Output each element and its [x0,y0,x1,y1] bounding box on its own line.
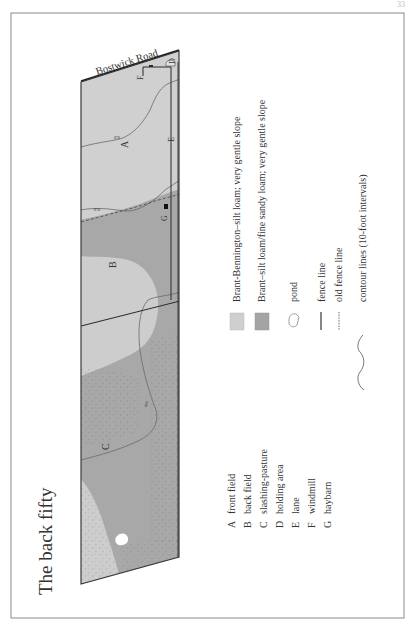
field-label-f: F [136,75,145,80]
svg-text:haybarn: haybarn [322,482,333,514]
legend-label-light-swatch: Brant-Bennington–silt loam; very gentle … [231,116,242,302]
legend-key-e: Elane [290,497,301,528]
field-label-e: E [167,137,176,142]
field-label-b: B [107,261,118,268]
field-label-a: A [119,140,130,148]
svg-text:front field: front field [226,474,237,514]
legend-key-f: Fwindmill [306,478,317,528]
svg-text:lane: lane [290,497,301,514]
map-page: 33 The back fifty [0,0,411,624]
legend-label-contour-line: contour lines (10-foot intervals) [357,175,369,302]
page-number: 33 [397,0,405,9]
svg-text:A: A [226,520,237,528]
map-area [70,40,190,600]
svg-text:back field: back field [242,474,253,514]
contour-label: 870 [94,207,100,212]
legend-key-g: Ghaybarn [322,482,333,528]
light-soil-swatch [230,313,244,330]
legend-label-fence-line: fence line [316,262,327,302]
legend-label-pond: pond [288,282,299,302]
svg-text:F: F [306,522,317,528]
field-label-c: C [100,443,111,450]
svg-text:B: B [242,521,253,528]
contour-line-icon [358,335,364,390]
pond-icon [289,314,299,327]
legend-label-old-fence-line: old fence line [333,247,344,302]
svg-text:holding area: holding area [274,464,285,514]
legend-key-a: Afront field [226,474,237,528]
field-label-g: G [160,215,169,221]
legend-symbols: Brant-Bennington–silt loam; very gentle … [230,99,369,390]
svg-text:windmill: windmill [306,478,317,514]
svg-text:C: C [258,521,269,528]
legend-key-b: Bback field [242,474,253,528]
page-frame [11,13,404,618]
map-title: The back fifty [35,487,56,595]
legend-keys: Afront field Bback field Cslashing-pastu… [226,448,333,528]
legend-label-dark-swatch: Brant–silt loam/fine sandy loam; very ge… [256,99,267,302]
svg-text:D: D [274,521,285,528]
svg-text:The back fifty: The back fifty [35,487,56,595]
svg-text:slashing-pasture: slashing-pasture [258,448,269,514]
svg-text:E: E [290,522,301,528]
legend-key-d: Dholding area [274,464,285,528]
dark-soil-swatch [255,313,269,330]
svg-text:G: G [322,521,333,528]
legend-key-c: Cslashing-pasture [258,448,269,528]
field-label-d: D [168,58,177,64]
map-figure: The back fifty [0,0,411,624]
contour-label: 870 [114,135,120,140]
